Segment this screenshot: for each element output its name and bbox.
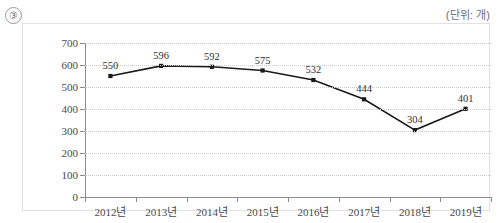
data-point-label: 575	[255, 55, 271, 66]
x-axis-tick	[288, 197, 289, 202]
x-axis-label: 2019년	[450, 203, 482, 219]
y-axis-tick	[80, 87, 85, 88]
y-gridline	[85, 175, 491, 176]
y-gridline	[85, 153, 491, 154]
data-point-marker	[311, 78, 315, 82]
plot-area: 01002003004005006007002012년2013년2014년201…	[85, 43, 491, 197]
y-gridline	[85, 109, 491, 110]
y-axis-label: 100	[62, 169, 79, 181]
data-point-label: 444	[356, 83, 372, 94]
x-axis-label: 2018년	[399, 203, 431, 219]
y-gridline	[85, 65, 491, 66]
data-point-label: 401	[458, 93, 474, 104]
x-axis-tick	[390, 197, 391, 202]
data-point-marker	[261, 68, 265, 72]
y-axis-label: 200	[62, 147, 79, 159]
x-axis-label: 2013년	[145, 203, 177, 219]
y-axis-tick	[80, 153, 85, 154]
y-axis-label: 600	[62, 59, 79, 71]
x-axis-tick	[187, 197, 188, 202]
x-axis-tick	[85, 197, 86, 202]
y-axis-label: 700	[62, 37, 79, 49]
data-point-marker	[362, 97, 366, 101]
data-point-marker	[108, 74, 112, 78]
data-point-label: 550	[103, 60, 119, 71]
chart-panel: 01002003004005006007002012년2013년2014년201…	[22, 23, 490, 211]
x-axis-tick	[339, 197, 340, 202]
x-axis-tick	[237, 197, 238, 202]
y-gridline	[85, 87, 491, 88]
data-point-label: 592	[204, 51, 220, 62]
x-axis-label: 2014년	[196, 203, 228, 219]
chart-screenshot: ③ (단위: 개) 01002003004005006007002012년201…	[0, 0, 498, 223]
x-axis-label: 2015년	[247, 203, 279, 219]
y-axis-tick	[80, 65, 85, 66]
line-series	[85, 43, 491, 197]
y-axis-label: 500	[62, 81, 79, 93]
y-axis-tick	[80, 43, 85, 44]
x-axis-label: 2017년	[348, 203, 380, 219]
y-axis-tick	[80, 109, 85, 110]
y-axis-tick	[80, 131, 85, 132]
data-point-label: 304	[407, 114, 423, 125]
y-axis-tick	[80, 175, 85, 176]
x-axis-label: 2016년	[297, 203, 329, 219]
x-axis-tick	[440, 197, 441, 202]
y-axis-label: 400	[62, 103, 79, 115]
x-axis-tick	[491, 197, 492, 202]
y-axis-label: 0	[73, 191, 79, 203]
y-gridline	[85, 43, 491, 44]
item-number-marker: ③	[5, 7, 22, 24]
unit-note-label: (단위: 개)	[446, 6, 490, 22]
x-axis-tick	[136, 197, 137, 202]
x-axis-label: 2012년	[94, 203, 126, 219]
data-point-label: 532	[306, 64, 322, 75]
data-point-label: 596	[153, 50, 169, 61]
y-axis-label: 300	[62, 125, 79, 137]
y-gridline	[85, 131, 491, 132]
